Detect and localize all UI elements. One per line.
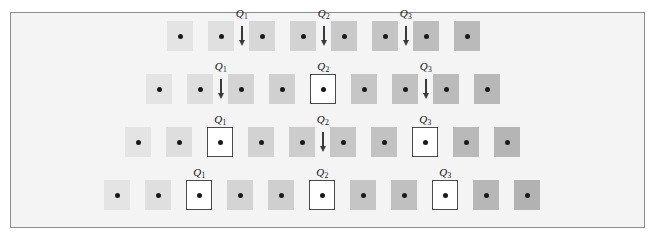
state-square bbox=[433, 74, 459, 104]
marker-label-q1-r3: Q1 bbox=[214, 114, 226, 125]
state-square bbox=[371, 127, 397, 157]
particle-dot bbox=[423, 140, 428, 145]
particle-dot bbox=[115, 193, 120, 198]
particle-dot bbox=[424, 34, 429, 39]
cell-r4-c2 bbox=[145, 180, 171, 210]
arrow-shaft bbox=[241, 26, 243, 41]
measurement-arrow-q2 bbox=[318, 132, 327, 153]
marker-label-q3-r4: Q3 bbox=[439, 167, 451, 178]
arrow-shaft bbox=[322, 132, 324, 147]
cell-r4-c8 bbox=[391, 180, 417, 210]
marker-label-q3-r3: Q3 bbox=[419, 114, 431, 125]
particle-dot bbox=[156, 193, 161, 198]
particle-dot bbox=[136, 140, 141, 145]
particle-dot bbox=[218, 140, 223, 145]
particle-dot bbox=[320, 193, 325, 198]
figure-frame: Q1Q2Q3Q1Q2Q3Q1Q2Q3Q1Q2Q3 bbox=[10, 12, 645, 228]
state-square bbox=[290, 21, 316, 51]
marker-label-q2-r3: Q2 bbox=[317, 114, 329, 125]
particle-dot bbox=[464, 140, 469, 145]
state-square bbox=[392, 74, 418, 104]
marker-label-q2-r2: Q2 bbox=[317, 61, 329, 72]
measured-box bbox=[432, 180, 458, 210]
state-square bbox=[146, 74, 172, 104]
arrow-head-icon bbox=[403, 40, 409, 46]
state-square bbox=[166, 127, 192, 157]
state-square bbox=[453, 127, 479, 157]
measured-box bbox=[310, 74, 336, 104]
state-square bbox=[167, 21, 193, 51]
particle-dot bbox=[362, 87, 367, 92]
particle-dot bbox=[341, 140, 346, 145]
particle-dot bbox=[444, 87, 449, 92]
state-square bbox=[494, 127, 520, 157]
particle-dot bbox=[484, 193, 489, 198]
particle-dot bbox=[178, 34, 183, 39]
cell-r4-c10 bbox=[473, 180, 499, 210]
state-square bbox=[331, 21, 357, 51]
state-square bbox=[227, 180, 253, 210]
arrow-head-icon bbox=[321, 40, 327, 46]
state-square bbox=[514, 180, 540, 210]
state-square bbox=[269, 74, 295, 104]
marker-label-q1-r4: Q1 bbox=[193, 167, 205, 178]
state-square bbox=[248, 127, 274, 157]
particle-dot bbox=[465, 34, 470, 39]
marker-label-q2-r1: Q2 bbox=[318, 8, 330, 19]
cell-r3-c6 bbox=[330, 127, 356, 157]
cell-r2-c8 bbox=[433, 74, 459, 104]
measurement-arrow-q3 bbox=[421, 79, 430, 100]
cell-r1-c1 bbox=[167, 21, 193, 51]
state-square bbox=[474, 74, 500, 104]
state-square bbox=[473, 180, 499, 210]
marker-label-q1-r2: Q1 bbox=[215, 61, 227, 72]
cell-r2-c5 bbox=[310, 74, 336, 104]
measured-box bbox=[207, 127, 233, 157]
arrow-head-icon bbox=[423, 93, 429, 99]
state-square bbox=[351, 74, 377, 104]
arrow-head-icon bbox=[239, 40, 245, 46]
state-square bbox=[187, 74, 213, 104]
cell-r3-c1 bbox=[125, 127, 151, 157]
cell-r3-c3 bbox=[207, 127, 233, 157]
particle-dot bbox=[279, 193, 284, 198]
cell-r1-c3 bbox=[249, 21, 275, 51]
cell-r4-c4 bbox=[227, 180, 253, 210]
arrow-shaft bbox=[323, 26, 325, 41]
particle-dot bbox=[239, 87, 244, 92]
cell-r1-c7 bbox=[413, 21, 439, 51]
row-4: Q1Q2Q3 bbox=[11, 180, 644, 234]
cell-r1-c6 bbox=[372, 21, 398, 51]
cell-r1-c5 bbox=[331, 21, 357, 51]
cell-r4-c1 bbox=[104, 180, 130, 210]
cell-r1-c2 bbox=[208, 21, 234, 51]
arrow-shaft bbox=[425, 79, 427, 94]
state-square bbox=[208, 21, 234, 51]
state-square bbox=[104, 180, 130, 210]
cell-r4-c5 bbox=[268, 180, 294, 210]
cell-r3-c7 bbox=[371, 127, 397, 157]
state-square bbox=[350, 180, 376, 210]
state-square bbox=[289, 127, 315, 157]
arrow-shaft bbox=[405, 26, 407, 41]
particle-dot bbox=[260, 34, 265, 39]
cell-r3-c10 bbox=[494, 127, 520, 157]
measurement-arrow-q3 bbox=[401, 26, 410, 47]
cell-r3-c5 bbox=[289, 127, 315, 157]
particle-dot bbox=[402, 193, 407, 198]
particle-dot bbox=[238, 193, 243, 198]
cell-r1-c4 bbox=[290, 21, 316, 51]
particle-dot bbox=[383, 34, 388, 39]
state-square bbox=[391, 180, 417, 210]
particle-dot bbox=[219, 34, 224, 39]
measured-box bbox=[309, 180, 335, 210]
particle-dot bbox=[280, 87, 285, 92]
marker-label-q1-r1: Q1 bbox=[236, 8, 248, 19]
arrow-head-icon bbox=[320, 146, 326, 152]
cell-r2-c1 bbox=[146, 74, 172, 104]
state-square bbox=[268, 180, 294, 210]
state-square bbox=[125, 127, 151, 157]
particle-dot bbox=[300, 140, 305, 145]
state-square bbox=[228, 74, 254, 104]
cell-r3-c2 bbox=[166, 127, 192, 157]
